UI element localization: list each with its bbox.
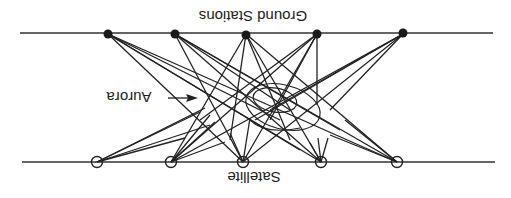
stub-line (97, 138, 185, 162)
aurora-link-diagram: Ground Stations Satellite Aurora (0, 0, 511, 198)
ground-station-dot (242, 31, 251, 40)
link-line (243, 34, 403, 162)
link-line (230, 34, 246, 140)
ground-station-dot (171, 30, 180, 39)
ground-station-dot (313, 30, 322, 39)
link-line (255, 34, 403, 120)
stub-line (345, 120, 397, 162)
link-line (330, 34, 403, 110)
aurora-label: Aurora (106, 89, 152, 106)
link-line (246, 34, 397, 162)
ground-station-dot (399, 29, 408, 38)
link-line (246, 34, 321, 162)
satellite-label: Satellite (227, 169, 280, 186)
ground-station-dot (104, 30, 113, 39)
ground-stations-label: Ground Stations (199, 8, 307, 25)
stub-line (230, 133, 243, 162)
stub-line (330, 135, 397, 162)
ground-station-nodes (104, 29, 408, 40)
link-line (246, 34, 290, 140)
